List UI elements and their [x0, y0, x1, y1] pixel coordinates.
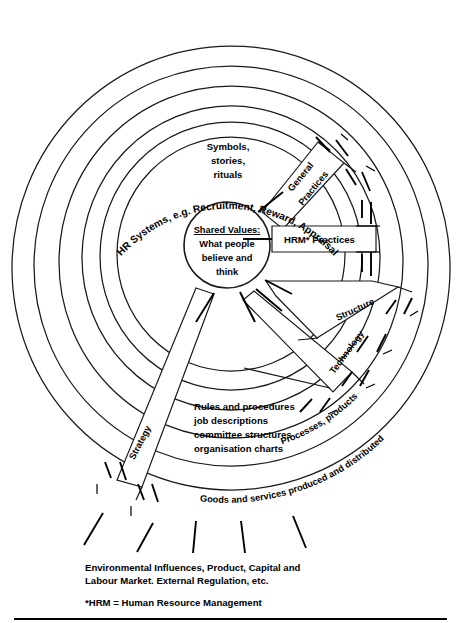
label-rules-line-1: Rules and procedures [194, 401, 295, 412]
label-symbols-line-1: Symbols, [207, 141, 250, 152]
arrow-structure-up-b [377, 334, 386, 352]
caption-footnote-hrm: *HRM = Human Resource Management [85, 597, 263, 608]
arrow-technology-down-b [300, 399, 312, 412]
hrm-concentric-diagram: Shared Values: What people believe and t… [0, 0, 462, 623]
label-hrm-practices: HRM* Practices [284, 234, 355, 245]
caption-environment-line-1: Environmental Influences, Product, Capit… [85, 562, 301, 573]
label-symbols-line-2: stories, [211, 155, 245, 166]
arrow-environment-2 [137, 523, 153, 552]
core-line-3: think [216, 267, 239, 277]
arrow-structure-down [386, 300, 396, 314]
label-symbols-line-3: rituals [214, 169, 243, 180]
arrow-structure-up [404, 298, 412, 314]
label-rules-line-2: job descriptions [193, 415, 268, 426]
tick-technology-a [366, 384, 375, 388]
label-rules-line-3: committee structures [194, 429, 292, 440]
arrow-environment-4 [241, 521, 245, 553]
tick-gp-outer [341, 134, 348, 140]
arrow-environment-5 [293, 516, 306, 548]
arrow-environment-3 [193, 521, 196, 553]
stub-gp-outer [344, 163, 356, 172]
caption-group: Environmental Influences, Product, Capit… [85, 562, 301, 608]
label-rules-line-4: organisation charts [194, 443, 283, 454]
arrow-strategy-down-b [152, 484, 158, 502]
tick-structure-a [410, 311, 418, 316]
core-heading: Shared Values: [194, 225, 261, 235]
arrow-environment-1 [84, 513, 103, 545]
core-line-1: What people [199, 239, 254, 249]
core-line-2: believe and [202, 253, 253, 263]
tick-structure-b [383, 350, 392, 354]
arrow-strategy-up [105, 462, 111, 478]
caption-environment-line-2: Labour Market. External Regulation, etc. [85, 575, 268, 586]
figure-root: Shared Values: What people believe and t… [0, 0, 462, 623]
tick-gp-inner [366, 166, 375, 171]
arrow-gp-down-outer [336, 140, 348, 156]
core-group: Shared Values: What people believe and t… [184, 202, 270, 288]
